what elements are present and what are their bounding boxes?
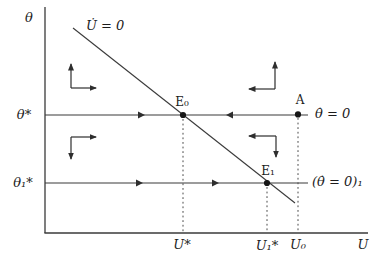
a-point-label: A xyxy=(295,93,305,107)
theta-1-star-tick-label: θ₁* xyxy=(13,175,33,190)
u-0-tick-label: U₀ xyxy=(290,237,307,252)
point-a xyxy=(295,111,301,117)
flow-right-arrow-icon xyxy=(212,180,219,187)
theta-star-tick-label: θ* xyxy=(17,107,32,122)
y-axis-label: θ xyxy=(25,10,33,25)
point-e0 xyxy=(180,112,186,118)
flow-right-arrow-icon xyxy=(138,112,145,119)
phase-diagram-figure: θ U U̇ = 0 θ̇ = 0 (θ̇ = 0)₁ θ* θ₁* U* U₁… xyxy=(0,0,386,263)
e1-point-label: E₁ xyxy=(261,164,275,178)
phase-diagram-canvas: θ U U̇ = 0 θ̇ = 0 (θ̇ = 0)₁ θ* θ₁* U* U₁… xyxy=(0,0,386,263)
u-star-tick-label: U* xyxy=(173,237,191,252)
theta-dot-zero-1-label: (θ̇ = 0)₁ xyxy=(312,174,363,189)
flow-right-arrow-icon xyxy=(136,180,143,187)
u-1-star-tick-label: U₁* xyxy=(256,238,279,253)
u-dot-zero-label: U̇ = 0 xyxy=(86,18,124,33)
e0-point-label: E₀ xyxy=(175,95,189,109)
theta-dot-zero-label: θ̇ = 0 xyxy=(315,106,350,121)
x-axis-label: U xyxy=(358,237,370,252)
point-e1 xyxy=(264,180,270,186)
flow-left-arrow-icon xyxy=(226,112,233,119)
